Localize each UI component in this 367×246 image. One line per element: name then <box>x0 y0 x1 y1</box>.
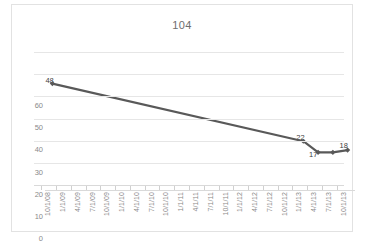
x-tick-label: 7/1/09 <box>89 192 96 212</box>
x-tick-label: 1/1/09 <box>59 192 66 212</box>
x-tick-label: 10/1/11 <box>222 192 229 216</box>
x-tick <box>322 186 323 190</box>
chart-frame: 104 0102030405060 10/1/081/1/094/1/097/1… <box>11 4 353 232</box>
y-tick-label: 60 <box>23 101 43 110</box>
x-tick-label: 4/1/10 <box>133 192 140 212</box>
gridline <box>34 185 344 186</box>
x-tick <box>278 186 279 190</box>
x-tick-label: 10/1/09 <box>103 192 110 216</box>
gridline <box>34 119 344 120</box>
x-tick <box>56 186 57 190</box>
x-tick <box>219 186 220 190</box>
y-tick-label: 10 <box>23 211 43 220</box>
x-tick <box>189 186 190 190</box>
x-tick <box>100 186 101 190</box>
plot-area <box>45 57 355 190</box>
x-tick-label: 7/1/12 <box>266 192 273 212</box>
x-tick-label: 4/1/13 <box>310 192 317 212</box>
y-tick-label: 20 <box>23 189 43 198</box>
x-tick <box>307 186 308 190</box>
gridline <box>34 163 344 164</box>
chart-title: 104 <box>12 19 352 31</box>
x-tick <box>145 186 146 190</box>
x-tick <box>233 186 234 190</box>
x-tick-label: 7/1/13 <box>325 192 332 212</box>
x-axis-line <box>45 190 355 191</box>
y-tick-label: 30 <box>23 167 43 176</box>
x-tick-label: 1/1/12 <box>236 192 243 212</box>
data-point-label: 17 <box>309 150 317 159</box>
x-tick-label: 10/1/10 <box>162 192 169 216</box>
x-tick <box>71 186 72 190</box>
x-tick <box>159 186 160 190</box>
x-tick-label: 4/1/11 <box>192 192 199 212</box>
x-tick-label: 1/1/13 <box>295 192 302 212</box>
data-point-label: 48 <box>45 76 53 85</box>
x-tick-label: 7/1/10 <box>148 192 155 212</box>
y-tick-label: 50 <box>23 123 43 132</box>
x-tick-label: 4/1/09 <box>74 192 81 212</box>
x-tick-label: 10/1/08 <box>44 192 51 216</box>
y-axis-labels: 0102030405060 <box>21 57 43 190</box>
data-point-label: 18 <box>340 141 348 150</box>
x-tick <box>41 186 42 190</box>
x-tick <box>174 186 175 190</box>
x-tick <box>292 186 293 190</box>
gridline <box>34 141 344 142</box>
x-tick <box>86 186 87 190</box>
y-tick-label: 40 <box>23 145 43 154</box>
x-tick <box>337 186 338 190</box>
x-tick-label: 1/1/10 <box>118 192 125 212</box>
x-tick-label: 7/1/11 <box>207 192 214 212</box>
gridline <box>34 74 344 75</box>
x-tick <box>204 186 205 190</box>
x-tick-label: 4/1/12 <box>251 192 258 212</box>
x-tick-label: 10/1/12 <box>281 192 288 216</box>
gridline <box>34 52 344 53</box>
x-tick <box>115 186 116 190</box>
x-tick <box>248 186 249 190</box>
y-tick-label: 0 <box>23 234 43 243</box>
x-tick <box>263 186 264 190</box>
x-tick-label: 1/1/11 <box>177 192 184 212</box>
x-tick-label: 10/1/13 <box>340 192 347 216</box>
gridline <box>34 96 344 97</box>
x-tick <box>130 186 131 190</box>
